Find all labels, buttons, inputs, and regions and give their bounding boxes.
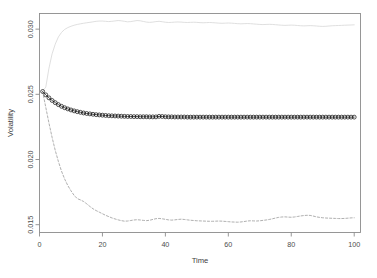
x-axis-title: Time [192,256,209,265]
x-tick-label: 100 [348,240,360,249]
x-tick-label: 60 [224,240,232,249]
y-tick-label: 0.030 [26,20,35,38]
x-tick-label: 20 [98,240,106,249]
y-tick-label: 0.025 [26,85,35,103]
volatility-chart: 020406080100 0.0150.0200.0250.030 Time V… [0,0,377,278]
x-tick-label: 40 [161,240,169,249]
y-axis-title: Volatility [6,109,15,137]
chart-figure: 020406080100 0.0150.0200.0250.030 Time V… [0,0,377,278]
y-tick-label: 0.015 [26,216,35,234]
y-tick-label: 0.020 [26,151,35,169]
x-tick-label: 80 [287,240,295,249]
x-tick-label: 0 [38,240,42,249]
